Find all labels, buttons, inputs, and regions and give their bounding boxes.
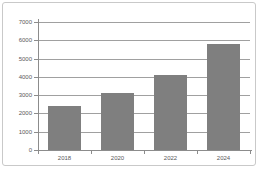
plot-area: 0100020003000400050006000700020182020202… <box>3 3 255 165</box>
y-tick-label-4000: 4000 <box>14 74 32 80</box>
y-tick-label-0: 0 <box>14 147 32 153</box>
y-tick-label-5000: 5000 <box>14 56 32 62</box>
x-axis-tick-3 <box>197 151 198 154</box>
gridline-7000 <box>38 22 250 23</box>
x-axis-tick-2 <box>144 151 145 154</box>
x-tick-label-2020: 2020 <box>103 155 133 161</box>
x-axis-line <box>34 150 252 151</box>
y-tick-label-3000: 3000 <box>14 92 32 98</box>
bar-2024 <box>207 44 240 150</box>
x-tick-label-2022: 2022 <box>156 155 186 161</box>
gridline-6000 <box>38 40 250 41</box>
y-tick-label-2000: 2000 <box>14 110 32 116</box>
bar-2020 <box>101 93 134 150</box>
x-tick-label-2024: 2024 <box>209 155 239 161</box>
chart-frame: 0100020003000400050006000700020182020202… <box>2 2 256 166</box>
y-tick-label-7000: 7000 <box>14 19 32 25</box>
y-tick-label-1000: 1000 <box>14 129 32 135</box>
x-tick-label-2018: 2018 <box>50 155 80 161</box>
bar-2018 <box>48 106 81 150</box>
bar-2022 <box>154 75 187 150</box>
x-axis-tick-4 <box>250 151 251 154</box>
x-axis-tick-1 <box>91 151 92 154</box>
y-axis-line <box>38 19 39 151</box>
y-tick-label-6000: 6000 <box>14 37 32 43</box>
x-axis-tick-0 <box>38 151 39 154</box>
